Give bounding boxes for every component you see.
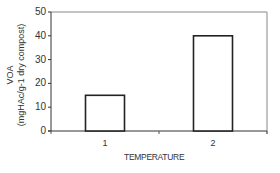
y-axis-label-line2: (mgHAc/g-1 dry compost) <box>16 15 27 135</box>
plot-frame <box>48 12 267 134</box>
y-tick-label: 10 <box>26 101 46 112</box>
y-tick-label: 0 <box>26 125 46 136</box>
bars <box>86 36 233 131</box>
y-tick-label: 50 <box>26 6 46 17</box>
y-axis-label-line1: VOA <box>5 15 16 135</box>
x-category-label: 1 <box>95 138 115 148</box>
bar-2 <box>194 36 233 131</box>
y-tick-label: 30 <box>26 54 46 65</box>
x-category-label: 2 <box>203 138 223 148</box>
y-axis-label: VOA (mgHAc/g-1 dry compost) <box>5 15 29 135</box>
x-axis-label: TEMPERATURE <box>124 152 184 162</box>
bar-1 <box>86 95 125 131</box>
y-tick-label: 40 <box>26 30 46 41</box>
y-tick-label: 20 <box>26 77 46 88</box>
